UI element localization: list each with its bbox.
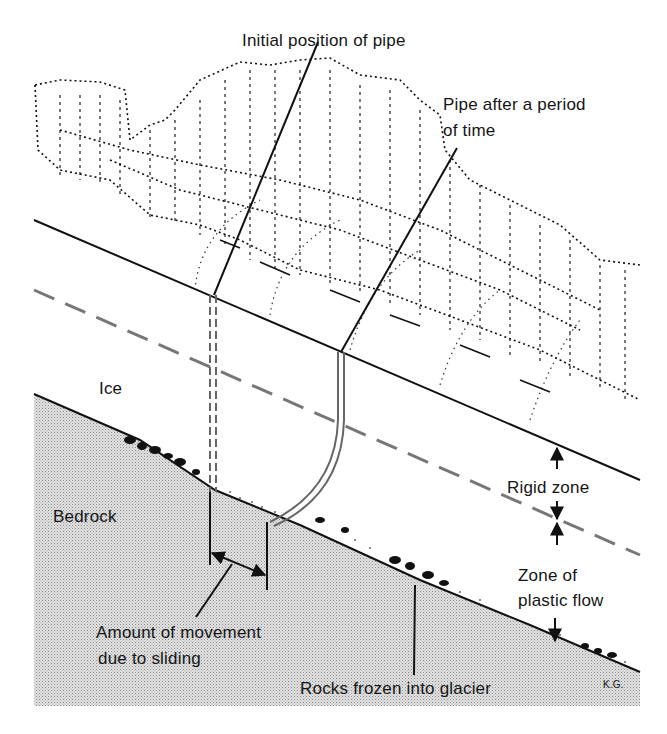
label-ice: Ice bbox=[99, 378, 122, 399]
label-pipe-after-1: Pipe after a period bbox=[443, 94, 586, 115]
label-plastic-flow-2: plastic flow bbox=[518, 590, 604, 611]
label-sliding-1: Amount of movement bbox=[96, 622, 261, 643]
label-rigid-zone: Rigid zone bbox=[507, 477, 589, 498]
rocks-pointer bbox=[414, 585, 415, 675]
initial-pipe-pointer bbox=[214, 42, 318, 295]
label-sliding-2: due to sliding bbox=[98, 648, 201, 669]
initial-pipe bbox=[210, 295, 216, 492]
artist-signature: K.G. bbox=[603, 674, 624, 695]
label-initial-pipe: Initial position of pipe bbox=[242, 30, 406, 51]
label-rocks: Rocks frozen into glacier bbox=[300, 678, 491, 699]
label-plastic-flow-1: Zone of bbox=[518, 565, 577, 586]
label-pipe-after-2: of time bbox=[443, 120, 495, 141]
deformed-pipe bbox=[270, 352, 344, 526]
deformed-pipe-pointer bbox=[341, 148, 457, 352]
label-bedrock: Bedrock bbox=[53, 506, 117, 527]
